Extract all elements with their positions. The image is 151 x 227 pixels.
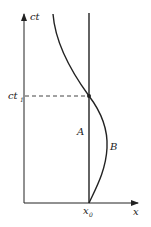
- spacetime-diagram: ct x ct 1 x 0 A B: [0, 0, 151, 227]
- ct-axis-label: ct: [30, 11, 41, 22]
- worldline-b-label: B: [109, 141, 117, 152]
- event-dot: [87, 94, 91, 98]
- x-axis-label: x: [133, 206, 139, 217]
- ct1-subscript: 1: [20, 96, 24, 103]
- worldline-b: [53, 14, 107, 203]
- x0-subscript: 0: [89, 211, 93, 218]
- worldline-a-label: A: [76, 126, 84, 137]
- ct1-label: ct: [8, 90, 19, 101]
